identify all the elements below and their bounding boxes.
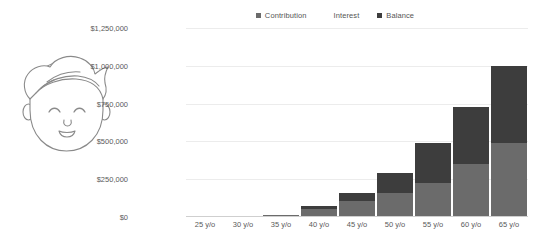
legend-item-interest[interactable]: Interest xyxy=(325,11,360,20)
bar-segment-contribution xyxy=(453,164,489,217)
bar-segment-interest xyxy=(377,173,413,193)
x-axis-tick-label: 25 y/o xyxy=(187,220,223,229)
x-axis-tick-label: 65 y/o xyxy=(491,220,527,229)
y-axis-tick-label: $1,250,000 xyxy=(90,24,128,33)
legend-item-balance[interactable]: Balance xyxy=(377,11,414,20)
bar-stack[interactable] xyxy=(339,28,375,217)
bar-segment-interest xyxy=(453,107,489,164)
bar-segment-interest xyxy=(415,143,451,183)
x-axis-line xyxy=(186,216,528,217)
bar-segment-contribution xyxy=(339,201,375,217)
bar-stack[interactable] xyxy=(301,28,337,217)
bar-group xyxy=(186,28,528,217)
x-axis-tick-label: 40 y/o xyxy=(301,220,337,229)
bar-stack[interactable] xyxy=(491,28,527,217)
x-axis-tick-label: 50 y/o xyxy=(377,220,413,229)
legend-swatch-balance xyxy=(377,13,382,18)
bar-stack[interactable] xyxy=(187,28,223,217)
bar-segment-contribution xyxy=(491,143,527,217)
bar-segment-contribution xyxy=(377,193,413,217)
y-axis-tick-label: $250,000 xyxy=(97,175,128,184)
bar-stack[interactable] xyxy=(263,28,299,217)
legend-swatch-interest xyxy=(325,13,330,18)
legend-label-interest: Interest xyxy=(334,11,360,20)
screenshot-root: Contribution Interest Balance $0$250,000… xyxy=(0,0,535,249)
x-axis-labels: 25 y/o30 y/o35 y/o40 y/o45 y/o50 y/o55 y… xyxy=(186,220,528,236)
legend-label-balance: Balance xyxy=(386,11,414,20)
bar-stack[interactable] xyxy=(415,28,451,217)
y-axis-tick-label: $750,000 xyxy=(97,99,128,108)
x-axis-tick-label: 30 y/o xyxy=(225,220,261,229)
x-axis-tick-label: 45 y/o xyxy=(339,220,375,229)
bar-segment-contribution xyxy=(415,183,451,217)
legend-swatch-contribution xyxy=(256,13,261,18)
y-axis-tick-label: $500,000 xyxy=(97,137,128,146)
bar-stack[interactable] xyxy=(377,28,413,217)
x-axis-tick-label: 55 y/o xyxy=(415,220,451,229)
y-axis-tick-label: $1,000,000 xyxy=(90,61,128,70)
legend-item-contribution[interactable]: Contribution xyxy=(256,11,307,20)
retirement-savings-chart: Contribution Interest Balance $0$250,000… xyxy=(135,0,535,249)
bar-stack[interactable] xyxy=(453,28,489,217)
bar-segment-interest xyxy=(491,66,527,143)
chart-legend: Contribution Interest Balance xyxy=(135,8,535,22)
bar-segment-interest xyxy=(339,193,375,201)
x-axis-tick-label: 35 y/o xyxy=(263,220,299,229)
plot-area xyxy=(186,28,528,217)
y-axis-tick-label: $0 xyxy=(120,213,128,222)
y-axis-labels: $0$250,000$500,000$750,000$1,000,000$1,2… xyxy=(84,28,132,217)
legend-label-contribution: Contribution xyxy=(265,11,307,20)
x-axis-tick-label: 60 y/o xyxy=(453,220,489,229)
bar-stack[interactable] xyxy=(225,28,261,217)
